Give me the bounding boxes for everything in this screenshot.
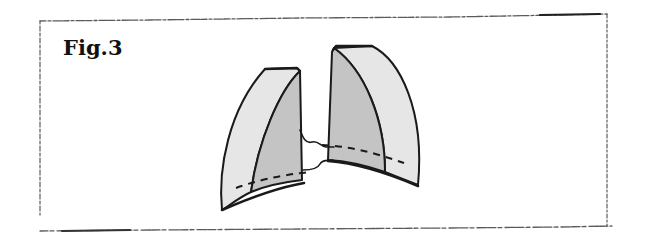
right-panel xyxy=(328,46,419,186)
frame-top-edge-thick xyxy=(540,14,600,15)
frame-top-edge xyxy=(40,14,607,21)
figure-label: Fig.3 xyxy=(63,37,123,58)
left-panel xyxy=(221,68,304,210)
frame-bottom-edge-thick xyxy=(62,230,130,231)
sketch-frame xyxy=(40,14,612,231)
